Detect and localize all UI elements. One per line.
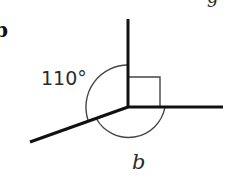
right-angle-marker	[128, 77, 160, 107]
angle-label-b: b	[132, 150, 145, 174]
angle-label-110: 110°	[41, 67, 87, 89]
angle-arc-110	[86, 65, 128, 120]
top-right-fragment: g	[207, 0, 219, 7]
angle-arc-b	[96, 107, 165, 137]
part-label: b	[0, 18, 8, 42]
angle-diagram: b g 110° b	[0, 0, 232, 178]
ray-lower-left	[30, 107, 128, 142]
